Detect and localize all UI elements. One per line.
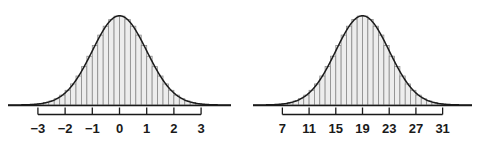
axis-tick-label: 7 [279, 121, 286, 136]
axis-tick-label: 15 [329, 121, 343, 136]
histogram-bar [341, 35, 346, 105]
histogram-bar [384, 45, 389, 105]
histogram-bar [92, 45, 97, 105]
axis-tick-label: 31 [435, 121, 449, 136]
axis-tick-label: 23 [382, 121, 396, 136]
axis-ticks-raw-scale [282, 108, 442, 115]
histogram-bar [98, 35, 103, 105]
histogram-bar [103, 26, 108, 105]
axis-tick-label: −1 [85, 121, 100, 136]
histogram-bar [395, 67, 400, 105]
histogram-bar [130, 26, 135, 105]
histogram-bar [352, 20, 357, 105]
histogram-bar [363, 16, 368, 105]
histogram-bar [109, 20, 114, 105]
two-panel-normal-distribution-figure: −3−2−10123 7111519232731 [0, 0, 479, 145]
histogram-bar [152, 67, 157, 105]
histogram-bar [147, 56, 152, 105]
histogram-bar [357, 16, 362, 105]
axis-group-raw-scale [253, 106, 472, 115]
histogram-bar [114, 16, 119, 105]
axis-ticks-z-scale [38, 108, 201, 115]
histogram-bar [336, 45, 341, 105]
histogram-bar [368, 20, 373, 105]
axis-tick-label: 1 [143, 121, 150, 136]
chart-panel-raw-scale: 7111519232731 [240, 0, 479, 145]
chart-panel-z-scale: −3−2−10123 [0, 0, 239, 145]
tick-labels-z-scale: −3−2−10123 [30, 121, 204, 136]
axis-tick-label: −2 [58, 121, 73, 136]
axis-tick-label: 19 [355, 121, 369, 136]
histogram-bar [330, 56, 335, 105]
tick-labels-raw-scale: 7111519232731 [279, 121, 450, 136]
histogram-bar [141, 45, 146, 105]
histogram-bar [373, 26, 378, 105]
axis-tick-label: 27 [409, 121, 423, 136]
histogram-bar [325, 67, 330, 105]
histogram-bar [120, 16, 125, 105]
histogram-bar [76, 76, 81, 105]
histogram-bar [346, 26, 351, 105]
histogram-bar [320, 76, 325, 105]
axis-tick-label: −3 [30, 121, 45, 136]
histogram-bar [400, 76, 405, 105]
histogram-bar [379, 35, 384, 105]
histogram-plot-raw-scale: 7111519232731 [240, 0, 479, 145]
histogram-bar [389, 56, 394, 105]
histogram-bar [136, 35, 141, 105]
axis-group-z-scale [8, 106, 231, 115]
histogram-plot-z-scale: −3−2−10123 [0, 0, 239, 145]
axis-tick-label: 11 [302, 121, 316, 136]
axis-tick-label: 3 [197, 121, 204, 136]
histogram-bar [87, 56, 92, 105]
bars-group-raw-scale [272, 16, 454, 105]
histogram-bar [158, 76, 163, 105]
axis-tick-label: 0 [116, 121, 123, 136]
bars-group-z-scale [27, 16, 212, 105]
histogram-bar [125, 20, 130, 105]
histogram-bar [81, 67, 86, 105]
axis-tick-label: 2 [170, 121, 177, 136]
